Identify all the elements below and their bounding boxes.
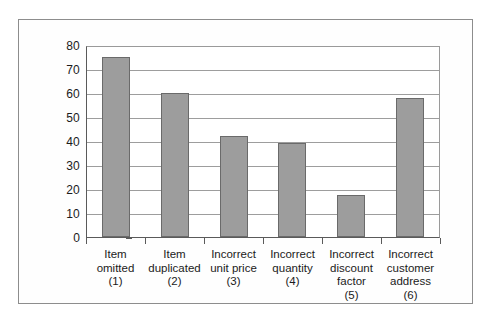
x-axis-label-line: duplicated <box>146 262 203 276</box>
y-tick-label: 20 <box>66 183 80 197</box>
x-axis-label: Incorrectdiscountfactor(5) <box>322 248 381 302</box>
x-axis-label: Incorrectquantity(4) <box>263 248 322 302</box>
x-tick-mark <box>145 238 146 244</box>
x-tick-mark <box>204 238 205 244</box>
x-tick-mark <box>322 238 323 244</box>
bar-slot <box>380 47 439 237</box>
x-axis-label-line: (6) <box>382 289 439 303</box>
x-tick-mark <box>381 238 382 244</box>
bar-slot <box>322 47 381 237</box>
x-axis-label-line: (4) <box>264 275 321 289</box>
x-tick-mark <box>263 238 264 244</box>
y-tick-label: 10 <box>66 207 80 221</box>
plot-area <box>86 46 440 238</box>
x-axis-label-line: discount <box>323 262 380 276</box>
bar-chart: 01020304050607080 Itemomitted(1)Itemdupl… <box>0 0 494 323</box>
x-tick-mark <box>86 238 87 244</box>
x-axis-label-line: Incorrect <box>205 248 262 262</box>
x-axis-label-line: (3) <box>205 275 262 289</box>
x-axis-label-line: Incorrect <box>382 248 439 262</box>
x-axis-label-line: unit price <box>205 262 262 276</box>
y-axis: 01020304050607080 <box>46 46 80 238</box>
x-axis-label-line: (1) <box>87 275 144 289</box>
x-axis-label-line: omitted <box>87 262 144 276</box>
y-tick-label: 60 <box>66 87 80 101</box>
bar-slot <box>263 47 322 237</box>
y-tick-label: 70 <box>66 63 80 77</box>
bar <box>396 98 424 237</box>
x-axis-label: Incorrectcustomeraddress(6) <box>381 248 440 302</box>
bar <box>220 136 248 237</box>
x-axis-label-line: address <box>382 275 439 289</box>
x-axis-label: Incorrectunit price(3) <box>204 248 263 302</box>
bars-layer <box>87 47 439 237</box>
x-axis-label-line: Item <box>87 248 144 262</box>
x-axis-label: Itemomitted(1) <box>86 248 145 302</box>
x-axis-label-line: quantity <box>264 262 321 276</box>
bar <box>278 143 306 237</box>
y-tick-label: 30 <box>66 159 80 173</box>
y-tick-label: 0 <box>73 231 80 245</box>
x-axis-label-line: Item <box>146 248 203 262</box>
bar <box>337 195 365 237</box>
y-tick-label: 40 <box>66 135 80 149</box>
y-tick-label: 50 <box>66 111 80 125</box>
x-axis-label: Itemduplicated(2) <box>145 248 204 302</box>
x-axis-ticks <box>86 238 440 244</box>
bar <box>102 57 130 237</box>
x-axis-label-line: Incorrect <box>323 248 380 262</box>
x-axis-label-line: customer <box>382 262 439 276</box>
x-axis-labels: Itemomitted(1)Itemduplicated(2)Incorrect… <box>86 248 440 302</box>
x-axis-label-line: (2) <box>146 275 203 289</box>
x-axis-label-line: factor <box>323 275 380 289</box>
x-axis-label-line: Incorrect <box>264 248 321 262</box>
x-axis-label-line: (5) <box>323 289 380 303</box>
bar-slot <box>146 47 205 237</box>
bar-slot <box>204 47 263 237</box>
bar-slot <box>87 47 146 237</box>
x-tick-mark <box>440 238 441 244</box>
y-tick-label: 80 <box>66 39 80 53</box>
bar <box>161 93 189 237</box>
